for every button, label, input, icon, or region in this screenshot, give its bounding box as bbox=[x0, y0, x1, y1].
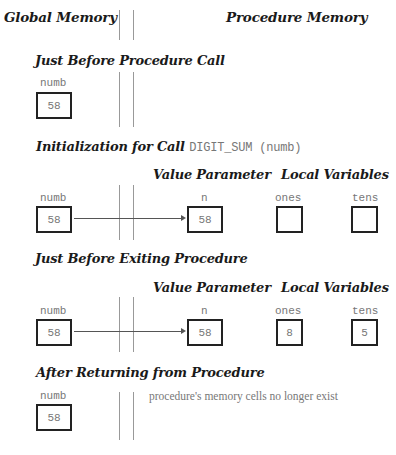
memory-divider-left bbox=[119, 10, 120, 40]
stage-2-divider-right bbox=[133, 185, 134, 240]
stage-2-local-vars-heading: Local Variables bbox=[281, 167, 389, 182]
stage-3-ones-value: 8 bbox=[286, 327, 293, 339]
stage-3-local-vars-heading: Local Variables bbox=[281, 280, 389, 295]
stage-2-value-param-heading: Value Parameter bbox=[153, 167, 271, 182]
stage-3-n-cell: 58 bbox=[187, 319, 223, 346]
stage-2-n-label: n bbox=[201, 192, 208, 204]
stage-4-numb-label: numb bbox=[40, 390, 66, 402]
stage-3-divider-right bbox=[133, 297, 134, 352]
stage-3-tens-label: tens bbox=[352, 305, 378, 317]
procedure-memory-heading: Procedure Memory bbox=[226, 9, 367, 25]
stage-3-n-value: 58 bbox=[198, 327, 211, 339]
stage-1-title: Just Before Procedure Call bbox=[35, 53, 225, 68]
stage-4-numb-value: 58 bbox=[47, 412, 60, 424]
stage-4-divider-left bbox=[119, 392, 120, 440]
memory-divider-right bbox=[133, 10, 134, 40]
stage-2-title-text: Initialization for Call bbox=[36, 139, 185, 154]
stage-1-numb-label: numb bbox=[40, 77, 66, 89]
stage-3-copy-arrow bbox=[74, 331, 182, 332]
stage-2-title: Initialization for Call DIGIT_SUM (numb) bbox=[36, 139, 301, 155]
stage-2-call-code: DIGIT_SUM (numb) bbox=[189, 141, 301, 155]
stage-2-ones-label: ones bbox=[275, 192, 301, 204]
stage-3-numb-label: numb bbox=[40, 305, 66, 317]
global-memory-heading: Global Memory bbox=[4, 9, 117, 25]
stage-1-numb-cell: 58 bbox=[36, 92, 72, 119]
stage-2-tens-cell bbox=[351, 206, 378, 233]
stage-3-divider-left bbox=[119, 297, 120, 352]
stage-3-ones-label: ones bbox=[275, 305, 301, 317]
stage-3-numb-cell: 58 bbox=[36, 319, 72, 346]
stage-3-tens-value: 5 bbox=[361, 327, 368, 339]
stage-1-numb-value: 58 bbox=[47, 100, 60, 112]
stage-2-copy-arrow bbox=[74, 218, 182, 219]
stage-4-note: procedure's memory cells no longer exist bbox=[149, 390, 338, 402]
stage-2-ones-cell bbox=[276, 206, 303, 233]
stage-4-title: After Returning from Procedure bbox=[36, 365, 264, 380]
stage-2-divider-left bbox=[119, 185, 120, 240]
stage-3-n-label: n bbox=[201, 305, 208, 317]
stage-3-tens-cell: 5 bbox=[351, 319, 378, 346]
stage-2-numb-label: numb bbox=[40, 192, 66, 204]
stage-2-n-value: 58 bbox=[198, 214, 211, 226]
stage-1-divider-left bbox=[119, 72, 120, 127]
stage-2-numb-cell: 58 bbox=[36, 206, 72, 233]
stage-2-numb-value: 58 bbox=[47, 214, 60, 226]
stage-2-tens-label: tens bbox=[352, 192, 378, 204]
stage-3-ones-cell: 8 bbox=[276, 319, 303, 346]
stage-2-arrowhead-icon bbox=[181, 215, 186, 221]
stage-3-numb-value: 58 bbox=[47, 327, 60, 339]
stage-2-n-cell: 58 bbox=[187, 206, 223, 233]
stage-3-title: Just Before Exiting Procedure bbox=[35, 251, 248, 266]
stage-1-divider-right bbox=[133, 72, 134, 127]
stage-4-numb-cell: 58 bbox=[36, 404, 72, 431]
stage-4-divider-right bbox=[133, 392, 134, 440]
stage-3-value-param-heading: Value Parameter bbox=[153, 280, 271, 295]
stage-3-arrowhead-icon bbox=[181, 328, 186, 334]
